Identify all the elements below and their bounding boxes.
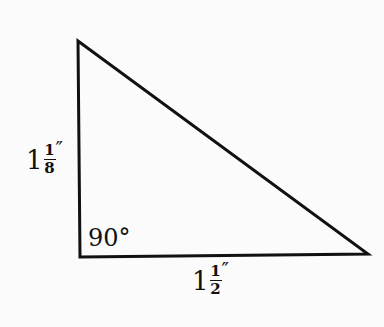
angle-label: 90° — [88, 226, 131, 250]
diagram-canvas: 118″ 90° 112″ — [0, 0, 384, 327]
numerator: 1 — [44, 143, 54, 158]
whole-number: 1 — [192, 266, 209, 296]
horizontal-side-label: 112″ — [192, 264, 229, 297]
numerator: 1 — [210, 264, 220, 279]
vertical-side-label: 118″ — [26, 143, 63, 176]
inch-unit: ″ — [222, 258, 229, 282]
fraction: 12 — [210, 264, 222, 297]
whole-number: 1 — [26, 145, 43, 175]
fraction: 18 — [44, 143, 56, 176]
inch-unit: ″ — [56, 137, 63, 161]
denominator: 2 — [210, 282, 220, 297]
denominator: 8 — [44, 161, 54, 176]
